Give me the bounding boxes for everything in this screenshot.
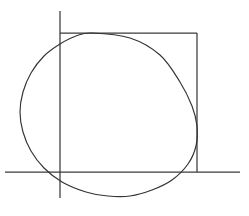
geometry-diagram bbox=[0, 0, 249, 216]
figure-root: Convex closed curve inscribed against ax… bbox=[0, 0, 249, 216]
